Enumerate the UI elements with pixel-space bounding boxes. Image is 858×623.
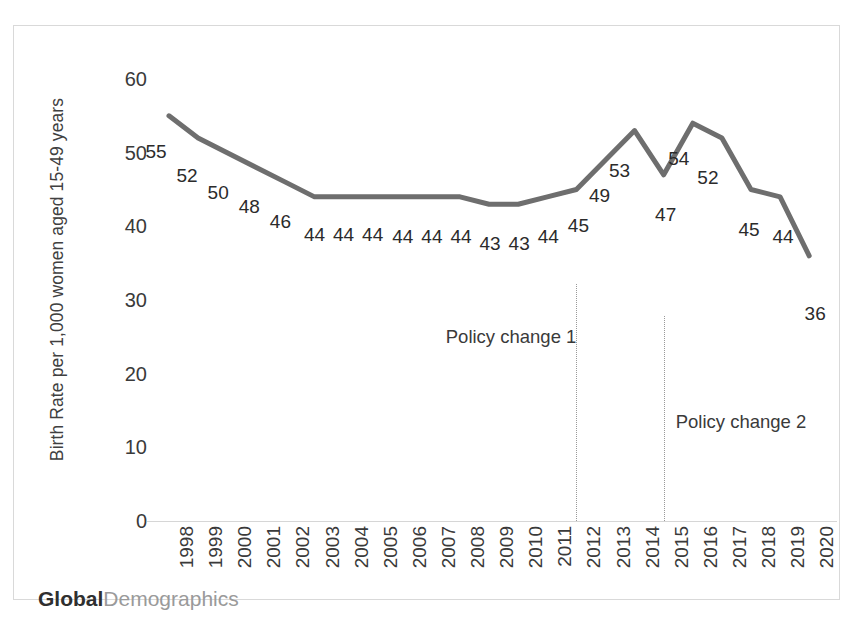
x-tick-2001: 2001	[263, 526, 285, 588]
data-label-2009: 43	[480, 233, 501, 255]
data-label-2019: 44	[773, 226, 794, 248]
data-label-2011: 44	[538, 226, 559, 248]
x-tick-2019: 2019	[787, 526, 809, 588]
x-tick-2003: 2003	[322, 526, 344, 588]
y-axis-title: Birth Rate per 1,000 women aged 15-49 ye…	[47, 65, 68, 495]
x-tick-1998: 1998	[176, 526, 198, 588]
x-tick-2006: 2006	[409, 526, 431, 588]
data-label-2001: 48	[239, 196, 260, 218]
annotation-label-2: Policy change 2	[676, 411, 844, 433]
data-label-2007: 44	[421, 226, 442, 248]
series-line-birth-rate	[147, 54, 837, 524]
y-tick-50: 50	[101, 141, 147, 164]
x-tick-2011: 2011	[554, 526, 576, 588]
data-label-2013: 49	[589, 185, 610, 207]
annotation-line-1	[576, 284, 577, 521]
data-label-2015: 47	[655, 204, 676, 226]
x-tick-2008: 2008	[467, 526, 489, 588]
data-label-2014: 53	[609, 160, 630, 182]
x-axis-tick-labels: 1998199920002001200220032004200520062007…	[147, 526, 837, 588]
x-tick-2020: 2020	[816, 526, 838, 588]
data-label-2003: 44	[304, 224, 325, 246]
data-label-2006: 44	[392, 226, 413, 248]
x-axis-line	[147, 521, 837, 522]
data-label-2017: 52	[697, 167, 718, 189]
y-axis-tick-labels: 0102030405060	[89, 26, 147, 599]
watermark-bold: Global	[38, 587, 103, 610]
x-tick-2007: 2007	[438, 526, 460, 588]
x-tick-2017: 2017	[729, 526, 751, 588]
y-tick-10: 10	[101, 436, 147, 459]
x-tick-2000: 2000	[234, 526, 256, 588]
x-tick-1999: 1999	[205, 526, 227, 588]
data-label-2008: 44	[450, 226, 471, 248]
x-tick-2016: 2016	[700, 526, 722, 588]
plot-area	[147, 54, 837, 524]
x-tick-2014: 2014	[642, 526, 664, 588]
x-tick-2009: 2009	[496, 526, 518, 588]
data-label-2000: 50	[208, 182, 229, 204]
watermark: GlobalDemographics	[38, 587, 239, 611]
y-tick-20: 20	[101, 362, 147, 385]
data-label-1999: 52	[177, 165, 198, 187]
x-tick-2013: 2013	[613, 526, 635, 588]
x-tick-2010: 2010	[525, 526, 547, 588]
data-label-2005: 44	[362, 224, 383, 246]
x-tick-2004: 2004	[351, 526, 373, 588]
y-tick-40: 40	[101, 215, 147, 238]
data-label-2018: 45	[738, 219, 759, 241]
chart-frame: Birth Rate per 1,000 women aged 15-49 ye…	[13, 25, 840, 600]
annotation-label-1: Policy change 1	[408, 326, 576, 348]
watermark-light: Demographics	[103, 587, 238, 610]
data-label-2020: 36	[805, 303, 826, 325]
y-tick-30: 30	[101, 289, 147, 312]
x-tick-2015: 2015	[671, 526, 693, 588]
annotation-line-2	[664, 316, 665, 521]
x-tick-2012: 2012	[583, 526, 605, 588]
data-label-2002: 46	[270, 211, 291, 233]
data-label-2004: 44	[333, 224, 354, 246]
x-tick-2005: 2005	[380, 526, 402, 588]
data-label-2010: 43	[509, 233, 530, 255]
x-tick-2002: 2002	[292, 526, 314, 588]
data-label-2016: 54	[668, 148, 689, 170]
x-tick-2018: 2018	[758, 526, 780, 588]
y-tick-60: 60	[101, 68, 147, 91]
y-tick-0: 0	[101, 510, 147, 533]
data-label-1998: 55	[145, 141, 166, 163]
data-label-2012: 45	[568, 215, 589, 237]
chart-screenshot: Birth Rate per 1,000 women aged 15-49 ye…	[0, 0, 858, 623]
